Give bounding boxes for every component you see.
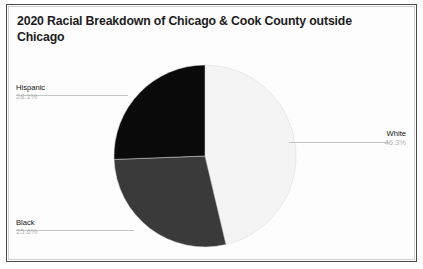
slice-label-black: Black [16,219,38,227]
slice-callout-black: Black 25.6% [16,219,38,237]
pie-svg [113,64,297,248]
slice-callout-white: White 46.3% [286,130,406,148]
pie-chart [113,64,297,248]
slice-label-white: White [286,130,406,138]
chart-figure: 2020 Racial Breakdown of Chicago & Cook … [0,0,423,269]
slice-value-hispanic: 28.1% [16,93,45,101]
slice-label-hispanic: Hispanic [16,84,45,92]
slice-value-white: 46.3% [286,139,406,147]
chart-title: 2020 Racial Breakdown of Chicago & Cook … [17,14,397,45]
slice-value-black: 25.6% [16,228,38,236]
slice-callout-hispanic: Hispanic 28.1% [16,84,45,102]
pie-slice-black[interactable] [114,65,205,159]
pie-slices [114,65,296,247]
